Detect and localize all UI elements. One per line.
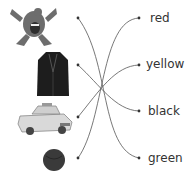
dot-jacket — [77, 64, 80, 67]
dot-taxi — [77, 116, 80, 119]
color-label-yellow: yellow — [146, 58, 184, 70]
dot-yellow — [138, 64, 141, 67]
color-label-green: green — [148, 152, 183, 164]
color-label-black: black — [148, 105, 180, 117]
dot-red — [138, 17, 141, 20]
dot-ball — [77, 157, 80, 160]
dot-black — [138, 110, 141, 113]
color-label-red: red — [150, 12, 170, 24]
dot-green — [138, 157, 141, 160]
dot-monster — [77, 17, 80, 20]
